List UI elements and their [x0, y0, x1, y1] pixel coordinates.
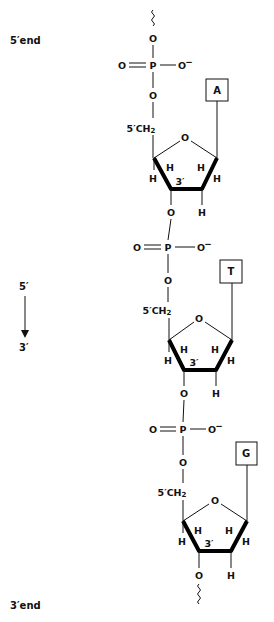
direction-arrow: 5′ 3′	[19, 281, 29, 353]
svg-text:H: H	[149, 173, 157, 184]
direction-3prime-label: 3′	[19, 342, 29, 353]
three-prime-label: 3′	[204, 538, 214, 549]
ring-bold-edge	[169, 340, 232, 370]
ring-oxygen: O	[181, 132, 189, 143]
svg-text:H: H	[197, 162, 205, 173]
five-end-label: 5′end	[10, 35, 41, 46]
dna-strand-diagram: 5′end 3′end 5′ 3′ O P O O − O 5′CH2 A O …	[0, 0, 274, 622]
nucleotide-3: P O O − O 5′CH2 G O H H 3′ H H O H	[149, 421, 257, 581]
three-end-label: 3′end	[10, 600, 41, 611]
svg-text:H: H	[227, 570, 235, 581]
chain-continuation-top-icon	[152, 10, 155, 26]
three-prime-label: 3′	[175, 176, 185, 187]
svg-text:H: H	[194, 525, 202, 536]
ring-bold-edge	[183, 521, 247, 551]
ring-oxygen: O	[195, 313, 203, 324]
ring-bold-edge	[154, 158, 217, 189]
ester-oxygen: O	[164, 275, 172, 286]
svg-text:H: H	[198, 207, 206, 218]
ring-oxygen: O	[211, 495, 219, 506]
chain-continuation-bottom-icon	[198, 584, 201, 604]
arrow-down-icon	[21, 330, 29, 338]
minus-charge: −	[215, 421, 223, 431]
svg-text:H: H	[242, 536, 250, 547]
three-prime-oxygen: O	[180, 388, 188, 399]
three-prime-oxygen: O	[167, 207, 175, 218]
ester-oxygen: O	[149, 90, 157, 101]
ester-oxygen: O	[179, 457, 187, 468]
base-label: A	[213, 85, 221, 96]
svg-text:H: H	[180, 344, 188, 355]
minus-charge: −	[185, 57, 193, 67]
base-label: G	[242, 448, 250, 459]
svg-text:H: H	[213, 173, 221, 184]
svg-text:H: H	[166, 162, 174, 173]
ch2-5prime: 5′CH2	[158, 487, 187, 500]
double-bond-oxygen: O	[133, 242, 141, 253]
svg-text:H: H	[178, 536, 186, 547]
svg-text:H: H	[227, 355, 235, 366]
bridging-oxygen-top: O	[149, 33, 157, 44]
direction-5prime-label: 5′	[19, 281, 29, 292]
phosphorus: P	[180, 424, 187, 435]
svg-text:H: H	[212, 388, 220, 399]
nucleotide-1: O P O O − O 5′CH2 A O H H 3′ H H O H	[118, 33, 228, 241]
phosphorus: P	[165, 242, 172, 253]
three-prime-label: 3′	[189, 357, 199, 368]
minus-charge: −	[204, 239, 212, 249]
svg-text:H: H	[225, 525, 233, 536]
nucleotide-2: P O O − O 5′CH2 T O H H 3′ H H O H	[133, 239, 242, 422]
phosphorus: P	[150, 60, 157, 71]
three-prime-oxygen: O	[195, 570, 203, 581]
base-label: T	[228, 266, 235, 277]
double-bond-oxygen: O	[149, 424, 157, 435]
ch2-5prime: 5′CH2	[127, 123, 156, 136]
svg-text:H: H	[211, 344, 219, 355]
double-bond-oxygen: O	[118, 60, 126, 71]
ch2-5prime: 5′CH2	[143, 305, 172, 318]
svg-text:H: H	[164, 355, 172, 366]
